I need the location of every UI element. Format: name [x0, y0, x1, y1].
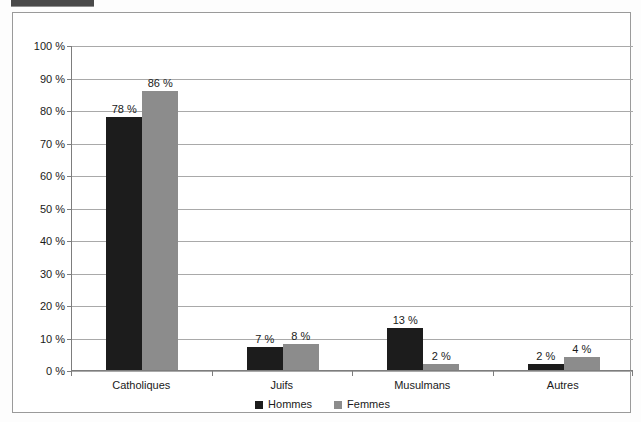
legend-item-femmes[interactable]: Femmes: [334, 399, 390, 410]
x-tick-mark: [212, 371, 213, 376]
x-tick-mark: [352, 371, 353, 376]
y-tick-mark: [67, 79, 72, 80]
y-tick-label: 80 %: [19, 106, 65, 117]
y-tick-label: 60 %: [19, 171, 65, 182]
y-tick-mark: [67, 241, 72, 242]
y-tick-mark: [67, 46, 72, 47]
legend-item-hommes[interactable]: Hommes: [255, 399, 312, 410]
y-tick-label: 50 %: [19, 204, 65, 215]
chart-legend: HommesFemmes: [13, 399, 632, 410]
chart-page: 0 %10 %20 %30 %40 %50 %60 %70 %80 %90 %1…: [0, 0, 641, 422]
bar-value-label: 2 %: [415, 351, 467, 362]
gridline: [72, 46, 633, 47]
x-axis-label-musulmans: Musulmans: [362, 379, 482, 391]
x-tick-mark: [632, 371, 633, 376]
x-axis-label-autres: Autres: [503, 379, 623, 391]
y-tick-mark: [67, 111, 72, 112]
x-axis-ticks: [71, 371, 633, 377]
y-tick-label: 100 %: [19, 41, 65, 52]
bar-femmes-autres: [564, 357, 600, 370]
y-tick-mark: [67, 306, 72, 307]
bar-femmes-juifs: [283, 344, 319, 370]
y-tick-label: 10 %: [19, 334, 65, 345]
bar-value-label: 8 %: [275, 331, 327, 342]
y-tick-label: 0 %: [19, 366, 65, 377]
bar-hommes-juifs: [247, 347, 283, 370]
y-tick-mark: [67, 274, 72, 275]
bar-value-label: 13 %: [379, 315, 431, 326]
y-tick-label: 90 %: [19, 74, 65, 85]
y-tick-label: 70 %: [19, 139, 65, 150]
header-strip: [11, 0, 94, 7]
x-axis-label-catholiques: Catholiques: [81, 379, 201, 391]
legend-swatch-icon: [334, 401, 342, 409]
y-tick-label: 30 %: [19, 269, 65, 280]
bar-hommes-autres: [528, 364, 564, 371]
bar-value-label: 4 %: [556, 344, 608, 355]
y-tick-mark: [67, 176, 72, 177]
bar-hommes-catholiques: [106, 117, 142, 371]
bar-femmes-musulmans: [423, 364, 459, 371]
y-axis: 0 %10 %20 %30 %40 %50 %60 %70 %80 %90 %1…: [13, 46, 65, 371]
y-tick-mark: [67, 144, 72, 145]
legend-label: Hommes: [268, 399, 312, 410]
x-axis-label-juifs: Juifs: [222, 379, 342, 391]
x-tick-mark: [493, 371, 494, 376]
legend-label: Femmes: [347, 399, 390, 410]
figure-frame: 0 %10 %20 %30 %40 %50 %60 %70 %80 %90 %1…: [12, 12, 631, 413]
bar-value-label: 86 %: [134, 78, 186, 89]
bar-femmes-catholiques: [142, 91, 178, 371]
bar-hommes-musulmans: [387, 328, 423, 370]
legend-swatch-icon: [255, 401, 263, 409]
y-tick-label: 20 %: [19, 301, 65, 312]
y-tick-mark: [67, 339, 72, 340]
y-tick-mark: [67, 209, 72, 210]
y-tick-label: 40 %: [19, 236, 65, 247]
x-tick-mark: [71, 371, 72, 376]
plot-area: 78 %86 %7 %8 %13 %2 %2 %4 %: [71, 46, 633, 371]
